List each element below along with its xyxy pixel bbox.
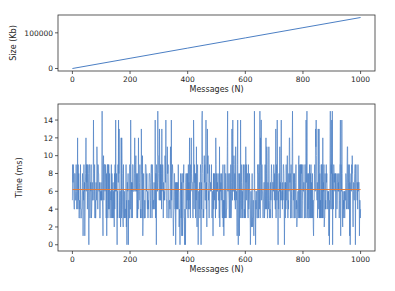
time-chart-y-ticks: 02468101214 [43,116,58,250]
size-chart-x-label: Messages (N) [190,85,244,94]
y-tick-label: 4 [48,205,53,214]
y-tick-label: 10 [43,151,53,160]
y-tick-label: 12 [43,134,53,143]
y-tick-label: 100000 [24,29,53,38]
size-chart-y-ticks: 0100000 [24,29,58,74]
x-tick-label: 1000 [351,75,370,84]
x-tick-label: 200 [123,255,138,264]
figure: 02004006008001000 0100000 Messages (N) S… [0,0,395,291]
x-tick-label: 800 [296,75,311,84]
y-tick-label: 0 [48,240,53,249]
y-tick-label: 8 [48,169,53,178]
size-chart-x-ticks: 02004006008001000 [70,71,370,84]
time-chart-y-label: Time (ms) [15,157,24,198]
time-chart-x-label: Messages (N) [190,265,244,274]
y-tick-label: 2 [48,223,53,232]
x-tick-label: 1000 [351,255,370,264]
time-line [72,111,360,245]
x-tick-label: 600 [238,255,253,264]
x-tick-label: 0 [70,75,75,84]
time-chart: 02004006008001000 02468101214 Messages (… [15,104,375,274]
y-tick-label: 6 [48,187,53,196]
x-tick-label: 800 [296,255,311,264]
x-tick-label: 400 [181,75,196,84]
x-tick-label: 200 [123,75,138,84]
size-line-series [72,18,360,69]
x-tick-label: 0 [70,255,75,264]
time-chart-x-ticks: 02004006008001000 [70,251,370,264]
time-line-series [72,111,360,245]
x-tick-label: 400 [181,255,196,264]
size-line [72,18,360,69]
y-tick-label: 0 [48,64,53,73]
y-tick-label: 14 [43,116,53,125]
size-chart: 02004006008001000 0100000 Messages (N) S… [9,15,375,94]
size-chart-y-label: Size (Kb) [9,25,18,61]
x-tick-label: 600 [238,75,253,84]
